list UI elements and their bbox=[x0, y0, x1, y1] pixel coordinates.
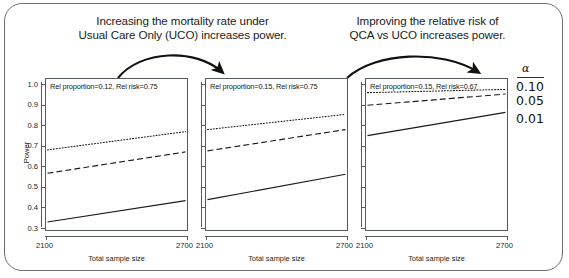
panel-3-ytick-06 bbox=[361, 166, 365, 167]
legend-item-alpha-001[interactable]: 0.01 bbox=[516, 111, 544, 126]
y-tick-label-08: 0.8 bbox=[18, 121, 38, 130]
y-tick-label-07: 0.7 bbox=[18, 141, 38, 150]
panel-1-xtick-label-1: 2700 bbox=[176, 241, 193, 250]
panel-1-ytick-06 bbox=[41, 166, 45, 167]
panel-3-ytick-04 bbox=[361, 207, 365, 208]
panel-2-ytick-06 bbox=[201, 166, 205, 167]
panel-1: Rel proportion=0.12, Rel risk=0.75 bbox=[45, 78, 188, 231]
annotation-right-line2: QCA vs UCO increases power. bbox=[305, 28, 550, 42]
panel-2-ytick-10 bbox=[201, 84, 205, 85]
panel-2-ytick-05 bbox=[201, 187, 205, 188]
legend-underline bbox=[517, 77, 544, 78]
panel-2-ytick-08 bbox=[201, 125, 205, 126]
panel-3-ytick-03 bbox=[361, 228, 365, 229]
y-tick-label-10: 1.0 bbox=[18, 80, 38, 89]
panel-2-ytick-07 bbox=[201, 146, 205, 147]
panel-1-xtick-1 bbox=[187, 236, 188, 240]
legend-title-alpha: α bbox=[522, 62, 529, 75]
panel-1-line-alpha-001 bbox=[47, 201, 185, 222]
panel-1-ytick-08 bbox=[41, 125, 45, 126]
panel-3-xtick-label-0: 2100 bbox=[356, 241, 373, 250]
panel-3-x-axis-label: Total sample size bbox=[365, 254, 508, 263]
panel-1-line-alpha-010 bbox=[47, 132, 185, 150]
panel-2-x-axis-label: Total sample size bbox=[205, 254, 348, 263]
panel-2-line-alpha-010 bbox=[207, 114, 345, 129]
panel-3-x-axis bbox=[365, 236, 508, 237]
panel-1-xtick-0 bbox=[46, 236, 47, 240]
y-tick-label-09: 0.9 bbox=[18, 100, 38, 109]
panel-2-xtick-0 bbox=[206, 236, 207, 240]
panel-3-xtick-1 bbox=[507, 236, 508, 240]
panel-2-x-axis bbox=[205, 236, 348, 237]
figure-root: Increasing the mortality rate under Usua… bbox=[0, 0, 569, 278]
panel-2-line-alpha-005 bbox=[207, 130, 345, 151]
panel-3-ytick-08 bbox=[361, 125, 365, 126]
legend-item-alpha-010[interactable]: 0.10 bbox=[516, 79, 544, 94]
panel-3: Rel proportion=0.15, Rel risk=0.67 bbox=[365, 78, 508, 231]
panel-3-line-alpha-005 bbox=[367, 94, 505, 105]
annotation-left-line1: Increasing the mortality rate under bbox=[55, 14, 310, 28]
panel-1-series bbox=[46, 79, 187, 230]
panel-3-line-alpha-001 bbox=[367, 112, 505, 135]
y-tick-label-05: 0.5 bbox=[18, 182, 38, 191]
annotation-right-line1: Improving the relative risk of bbox=[305, 14, 550, 28]
panel-3-ytick-09 bbox=[361, 105, 365, 106]
legend: α 0.10 0.05 0.01 bbox=[512, 62, 564, 142]
panel-3-xtick-0 bbox=[366, 236, 367, 240]
annotation-left: Increasing the mortality rate under Usua… bbox=[55, 14, 310, 41]
panel-2-series bbox=[206, 79, 347, 230]
panel-2-xtick-label-1: 2700 bbox=[336, 241, 353, 250]
annotation-right: Improving the relative risk of QCA vs UC… bbox=[305, 14, 550, 41]
panel-1-ytick-03 bbox=[41, 228, 45, 229]
panel-2-ytick-09 bbox=[201, 105, 205, 106]
legend-item-alpha-005[interactable]: 0.05 bbox=[516, 93, 544, 108]
panel-3-xtick-label-1: 2700 bbox=[496, 241, 513, 250]
panel-2-xtick-label-0: 2100 bbox=[196, 241, 213, 250]
panel-2: Rel proportion=0.15, Rel risk=0.75 bbox=[205, 78, 348, 231]
panel-1-ytick-04 bbox=[41, 207, 45, 208]
panel-1-x-axis bbox=[45, 236, 188, 237]
panel-1-xtick-label-0: 2100 bbox=[36, 241, 53, 250]
panel-1-ytick-09 bbox=[41, 105, 45, 106]
panel-2-xtick-1 bbox=[347, 236, 348, 240]
panel-2-ytick-03 bbox=[201, 228, 205, 229]
panel-1-line-alpha-005 bbox=[47, 152, 185, 173]
panel-1-ytick-10 bbox=[41, 84, 45, 85]
annotation-left-line2: Usual Care Only (UCO) increases power. bbox=[55, 28, 310, 42]
y-tick-label-04: 0.4 bbox=[18, 203, 38, 212]
panel-3-series bbox=[366, 79, 507, 230]
panel-2-line-alpha-001 bbox=[207, 174, 345, 199]
panel-1-ytick-05 bbox=[41, 187, 45, 188]
panel-3-ytick-05 bbox=[361, 187, 365, 188]
panel-2-ytick-04 bbox=[201, 207, 205, 208]
y-tick-label-03: 0.3 bbox=[18, 224, 38, 233]
y-tick-label-06: 0.6 bbox=[18, 162, 38, 171]
panel-1-x-axis-label: Total sample size bbox=[45, 254, 188, 263]
panel-3-ytick-07 bbox=[361, 146, 365, 147]
panel-3-line-alpha-010 bbox=[367, 89, 505, 92]
panel-1-ytick-07 bbox=[41, 146, 45, 147]
panel-3-ytick-10 bbox=[361, 84, 365, 85]
